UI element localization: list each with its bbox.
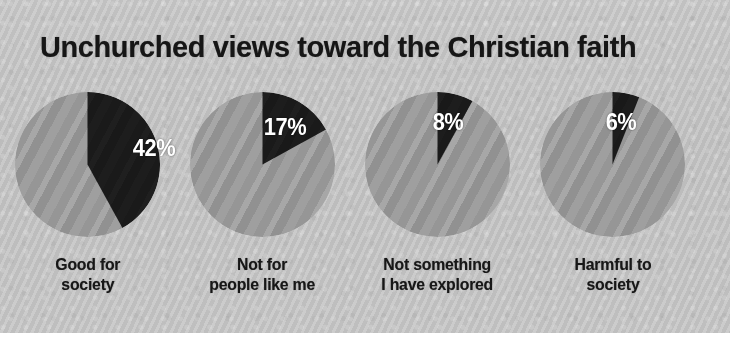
pie-value-label: 42% <box>132 134 174 161</box>
pie-slice-svg <box>15 92 160 237</box>
pie-chart-harmful-to-society: 6% Harmful to society <box>525 92 700 294</box>
pie-category-line1: Not something <box>382 254 494 274</box>
pie-category-label: Not for people like me <box>210 254 316 294</box>
pie-slice-svg <box>190 92 335 237</box>
pie-category-line1: Harmful to <box>574 254 651 274</box>
pie-disc <box>190 92 335 237</box>
pie-value-label: 8% <box>433 109 464 136</box>
pie-category-line2: society <box>574 274 651 294</box>
pie-graphic: 17% <box>190 92 335 237</box>
pie-graphic: 8% <box>365 92 510 237</box>
pie-category-line2: people like me <box>210 274 316 294</box>
pie-category-label: Good for society <box>55 254 120 294</box>
pie-category-line2: society <box>55 274 120 294</box>
newsprint-panel: Unchurched views toward the Christian fa… <box>0 0 730 333</box>
pie-chart-good-for-society: 42% Good for society <box>0 92 175 294</box>
pie-value-label: 6% <box>605 108 636 135</box>
pie-chart-not-something-i-have-explored: 8% Not something I have explored <box>350 92 525 294</box>
page-title: Unchurched views toward the Christian fa… <box>40 30 636 64</box>
pie-category-line1: Good for <box>55 254 120 274</box>
pie-category-label: Harmful to society <box>574 254 651 294</box>
pie-value-label: 17% <box>263 114 305 141</box>
pie-chart-group: 42% Good for society 17 <box>0 92 730 294</box>
pie-category-line2: I have explored <box>382 274 494 294</box>
pie-disc <box>15 92 160 237</box>
pie-graphic: 42% <box>15 92 160 237</box>
pie-graphic: 6% <box>540 92 685 237</box>
pie-category-label: Not something I have explored <box>382 254 494 294</box>
pie-chart-not-for-people-like-me: 17% Not for people like me <box>175 92 350 294</box>
pie-category-line1: Not for <box>210 254 316 274</box>
chart-page: Unchurched views toward the Christian fa… <box>0 0 742 349</box>
